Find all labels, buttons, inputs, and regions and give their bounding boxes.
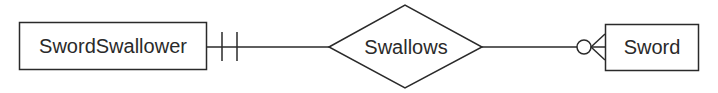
optional-zero-circle-icon <box>577 40 591 54</box>
entity-sword[interactable]: Sword <box>606 25 699 71</box>
connector-one-and-only-one <box>206 32 329 61</box>
entity-label: Sword <box>624 36 681 58</box>
relationship-label: Swallows <box>364 36 447 58</box>
entity-label: SwordSwallower <box>39 35 187 57</box>
entity-sword-swallower[interactable]: SwordSwallower <box>20 23 207 70</box>
crows-foot-many-icon <box>591 34 605 60</box>
connector-zero-or-many <box>482 34 605 60</box>
relationship-swallows[interactable]: Swallows <box>329 5 482 88</box>
er-diagram: SwordSwallower Swallows Sword <box>0 0 718 93</box>
